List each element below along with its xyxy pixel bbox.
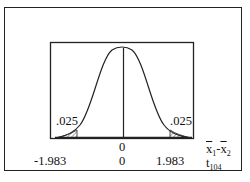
diff-zero-label: 0 — [119, 141, 125, 154]
t-axis-label: t104 — [206, 157, 221, 172]
left-tail-label: .025 — [56, 115, 78, 128]
t-zero-label: 0 — [119, 155, 125, 168]
t-right-label: 1.983 — [156, 155, 184, 168]
diff-axis-label: x1-x2 — [206, 143, 231, 158]
t-left-label: -1.983 — [34, 155, 66, 168]
right-tail-label: .025 — [170, 115, 192, 128]
